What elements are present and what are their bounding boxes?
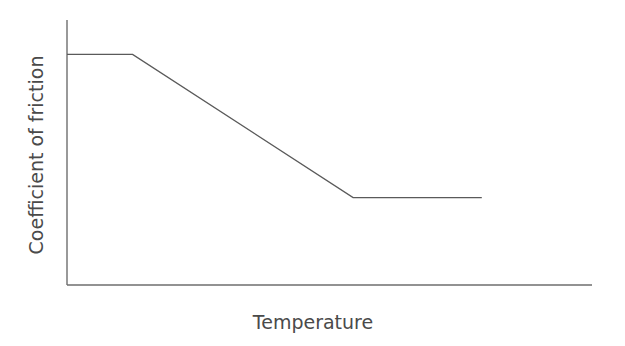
friction-curve: [67, 54, 482, 197]
x-axis-label: Temperature: [252, 311, 373, 333]
chart: Temperature Coefficient of friction: [0, 0, 625, 346]
y-axis-label: Coefficient of friction: [25, 56, 47, 255]
